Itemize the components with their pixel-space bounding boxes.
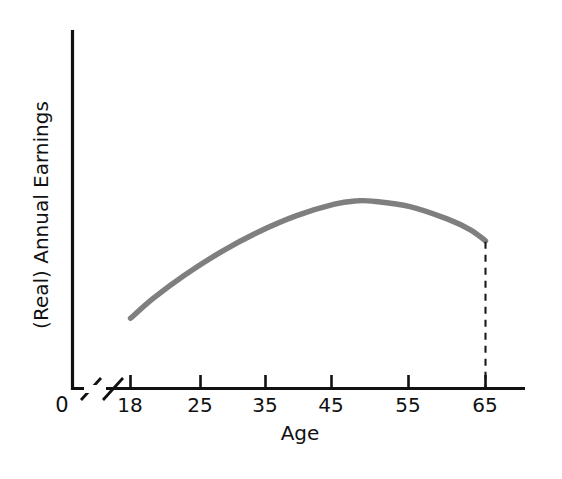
- x-axis-tick-label-35: 35: [252, 393, 277, 417]
- x-axis-title: Age: [281, 421, 320, 445]
- x-axis-tick-label-18: 18: [117, 393, 142, 417]
- x-axis-tick-label-55: 55: [395, 393, 420, 417]
- age-earnings-profile-chart: 0 18 25 35 45 55 65 Age (Real) Annual Ea…: [0, 0, 562, 479]
- y-axis-title: (Real) Annual Earnings: [29, 101, 53, 329]
- x-axis-tick-label-65: 65: [472, 393, 497, 417]
- chart-figure: 0 18 25 35 45 55 65 Age (Real) Annual Ea…: [0, 0, 562, 479]
- x-axis-tick-label-45: 45: [318, 393, 343, 417]
- x-axis-origin-label: 0: [55, 393, 68, 417]
- x-axis-tick-label-25: 25: [187, 393, 212, 417]
